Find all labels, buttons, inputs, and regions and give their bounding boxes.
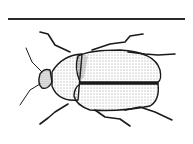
beetle-illustration [0, 0, 193, 144]
